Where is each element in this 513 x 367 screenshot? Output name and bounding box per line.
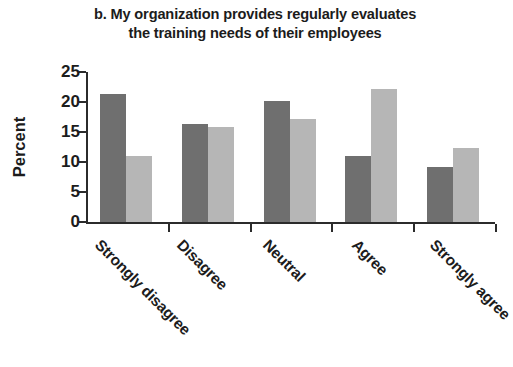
x-axis-category-labels: Strongly disagreeDisagreeNeutralAgreeStr…	[86, 222, 503, 367]
bar	[208, 127, 234, 222]
y-axis-tick-label: 20	[61, 92, 80, 112]
y-axis-tick-label: 25	[61, 62, 80, 82]
bar-group	[86, 72, 168, 222]
y-axis-tick-mark	[79, 101, 86, 103]
x-axis-category-label: Neutral	[259, 236, 309, 286]
bar-group	[413, 72, 495, 222]
y-axis-tick-mark	[79, 71, 86, 73]
bar	[371, 89, 397, 222]
bar	[345, 156, 371, 222]
y-axis-tick-mark	[79, 191, 86, 193]
chart-title-line-1: b. My organization provides regularly ev…	[40, 5, 470, 24]
bar-group	[250, 72, 332, 222]
bar	[100, 94, 126, 222]
plot-area: 0510152025	[86, 72, 495, 222]
bar	[427, 167, 453, 222]
chart-title: b. My organization provides regularly ev…	[40, 5, 470, 44]
y-axis-tick-label: 5	[71, 182, 80, 202]
x-axis-category-label: Strongly agree	[426, 236, 513, 323]
bar	[290, 119, 316, 222]
y-axis-tick-label: 0	[71, 212, 80, 232]
chart-title-line-2: the training needs of their employees	[40, 24, 470, 43]
y-axis-tick-mark	[79, 221, 86, 223]
bar-group	[168, 72, 250, 222]
y-axis-tick-label: 10	[61, 152, 80, 172]
y-axis-tick-label: 15	[61, 122, 80, 142]
y-axis-title: Percent	[6, 72, 32, 222]
x-axis-category-label: Agree	[349, 236, 392, 279]
y-axis-tick-mark	[79, 131, 86, 133]
x-axis-category-label: Disagree	[173, 236, 231, 294]
y-axis-title-label: Percent	[10, 117, 29, 178]
bar	[126, 156, 152, 222]
bar	[264, 101, 290, 222]
y-axis-tick-mark	[79, 161, 86, 163]
bar	[453, 148, 479, 222]
bar	[182, 124, 208, 222]
bar-group	[331, 72, 413, 222]
